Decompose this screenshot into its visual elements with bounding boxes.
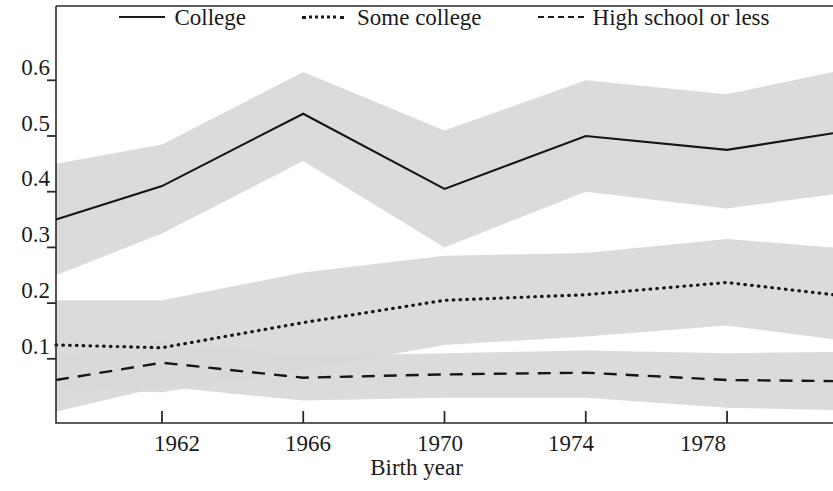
x-tick-label-1978: 1978 bbox=[663, 432, 743, 455]
y-tick-label-0.1: 0.1 bbox=[2, 335, 50, 358]
x-tick-label-1962: 1962 bbox=[137, 432, 217, 455]
chart-plot-area bbox=[0, 0, 833, 491]
y-tick-label-0.2: 0.2 bbox=[2, 279, 50, 302]
y-tick-label-0.3: 0.3 bbox=[2, 223, 50, 246]
chart-figure: College Some college High school or less… bbox=[0, 0, 833, 491]
y-tick-label-0.4: 0.4 bbox=[2, 167, 50, 190]
y-tick-label-0.5: 0.5 bbox=[2, 112, 50, 135]
x-tick-label-1966: 1966 bbox=[268, 432, 348, 455]
x-axis-title: Birth year bbox=[0, 455, 833, 481]
confidence-band-high-school-or-less bbox=[56, 342, 833, 412]
x-tick-label-1970: 1970 bbox=[400, 432, 480, 455]
x-tick-label-1974: 1974 bbox=[531, 432, 611, 455]
confidence-bands bbox=[56, 72, 833, 412]
y-tick-label-0.6: 0.6 bbox=[2, 56, 50, 79]
